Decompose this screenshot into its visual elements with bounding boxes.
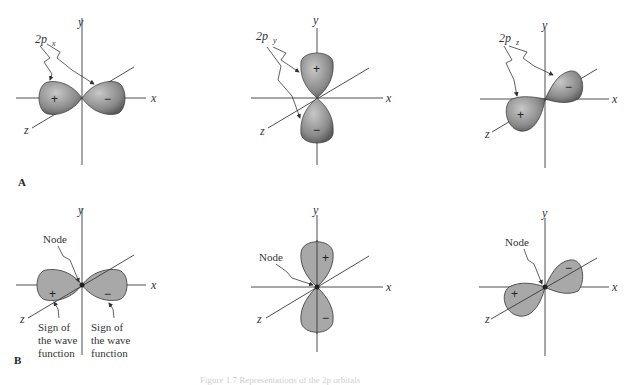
lobe-negative [545, 71, 583, 103]
node-label: Node [43, 233, 67, 245]
node-label: Node [505, 236, 529, 248]
negative-sign: − [565, 80, 572, 94]
orbital-2px-shaded: + − y x z 2p x [16, 15, 157, 165]
node-point [543, 285, 548, 290]
lobe-positive [506, 97, 545, 131]
sign-note-left: Sign of the wave function [38, 321, 80, 359]
z-axis-label: z [256, 312, 262, 326]
negative-sign: − [313, 123, 320, 137]
panel-label-b: B [14, 354, 22, 366]
node-point [80, 283, 85, 288]
figure-caption: Figure 1.7 Representations of the 2p orb… [200, 375, 360, 385]
z-axis-label: z [259, 124, 265, 138]
pointer-arrow [267, 47, 300, 118]
y-axis-label: y [312, 13, 319, 27]
pointer-arrow [109, 303, 114, 318]
node-label: Node [259, 251, 283, 263]
orbital-subscript: y [272, 36, 277, 45]
pointer-arrow [273, 47, 299, 72]
node-point [315, 285, 320, 290]
orbital-py-flat: + − y x z Node [251, 203, 392, 352]
orbital-label: 2p [35, 32, 47, 46]
pointer-arrow [504, 46, 517, 96]
orbital-2py-shaded: + − y x z 2p y [251, 13, 392, 165]
y-axis-label: y [541, 18, 548, 32]
orbital-2pz-shaded: + − y x z 2p z [480, 18, 618, 168]
panel-label-a: A [18, 176, 26, 188]
z-axis-label: z [19, 312, 25, 326]
orbital-subscript: z [515, 38, 520, 47]
orbital-label: 2p [256, 29, 268, 43]
x-axis-label: x [150, 91, 157, 105]
negative-sign: − [322, 311, 329, 325]
y-axis-label: y [312, 203, 319, 217]
positive-sign: + [322, 251, 329, 265]
pointer-arrow [524, 249, 542, 284]
x-axis-label: x [385, 280, 392, 294]
x-axis-label: x [150, 278, 157, 292]
positive-sign: + [313, 62, 320, 76]
y-axis-label: y [77, 203, 84, 217]
positive-sign: + [517, 108, 524, 122]
negative-sign: − [104, 287, 111, 301]
y-axis-label: y [77, 15, 84, 29]
x-axis-label: x [611, 92, 618, 106]
sign-note-right: Sign of the wave function [91, 321, 133, 359]
orbital-px-flat: + − y x z Node Sign of the wave function… [16, 203, 157, 359]
negative-sign: − [104, 92, 111, 106]
pointer-arrow [40, 46, 52, 80]
z-axis-label: z [23, 123, 29, 137]
orbital-pz-flat: + − y x z Node [479, 206, 618, 356]
pointer-arrow [47, 44, 94, 84]
x-axis-label: x [611, 280, 618, 294]
z-axis-label: z [484, 312, 490, 326]
positive-sign: + [49, 287, 56, 301]
y-axis-label: y [541, 206, 548, 220]
pointer-arrow [54, 302, 59, 318]
positive-sign: + [511, 287, 518, 301]
orbital-label: 2p [499, 31, 511, 45]
lobe-positive [39, 82, 82, 115]
negative-sign: − [565, 261, 572, 275]
x-axis-label: x [385, 91, 392, 105]
z-axis-label: z [484, 127, 490, 141]
positive-sign: + [51, 92, 58, 106]
lobe-positive [37, 270, 82, 301]
pointer-arrow [509, 46, 553, 75]
